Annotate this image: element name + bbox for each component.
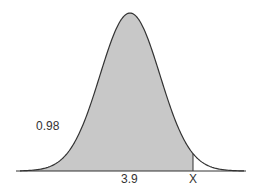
normal-distribution-chart xyxy=(0,0,258,191)
area-label: 0.98 xyxy=(36,120,59,132)
mean-label: 3.9 xyxy=(121,173,138,185)
cutoff-label: X xyxy=(189,173,197,185)
shaded-area xyxy=(20,13,193,171)
